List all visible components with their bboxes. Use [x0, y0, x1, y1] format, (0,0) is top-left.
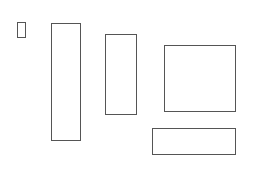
- rectangle-square: [164, 45, 236, 112]
- rectangle-tall: [51, 23, 81, 141]
- rectangle-small: [17, 22, 26, 38]
- rectangle-wide: [152, 128, 236, 155]
- rectangle-medium: [105, 34, 137, 115]
